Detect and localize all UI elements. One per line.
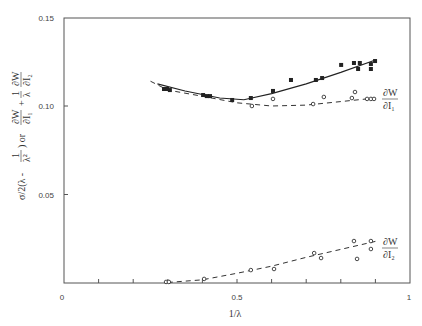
- y-label-text-1: σ/2(λ -: [16, 173, 28, 200]
- data-point-open: [167, 280, 171, 284]
- annotation-dw-di2: ∂W ∂I₂: [382, 236, 398, 260]
- data-point-filled: [201, 93, 205, 97]
- ann1-num: ∂W: [383, 87, 398, 98]
- data-point-open: [250, 104, 254, 108]
- data-point-filled: [230, 98, 234, 102]
- data-point-filled: [320, 76, 324, 80]
- y-label-di2: ∂I₂: [21, 74, 32, 86]
- y-label-text-2: ) or: [16, 133, 28, 148]
- data-point-filled: [271, 89, 275, 93]
- annotation-dw-di1: ∂W ∂I₁: [382, 87, 398, 111]
- ann1-den: ∂I₁: [383, 100, 395, 111]
- data-point-open: [272, 267, 276, 271]
- y-label-lambda: λ: [21, 92, 32, 97]
- fit-curves: [151, 60, 376, 282]
- data-point-filled: [314, 78, 318, 82]
- ann2-num: ∂W: [383, 236, 398, 247]
- y-label-frac-den: λ²: [21, 154, 32, 162]
- data-point-open: [369, 239, 373, 243]
- y-label-dw1: ∂W: [10, 109, 21, 124]
- data-point-filled: [373, 59, 377, 63]
- data-point-open: [365, 97, 369, 101]
- data-point-filled: [289, 78, 293, 82]
- y-label-plus: +: [16, 100, 27, 106]
- ann2-den: ∂I₂: [383, 249, 395, 260]
- data-point-open: [355, 257, 359, 261]
- chart: 0 0.5 1 0.05 0.10 0.15 1/λ σ/2(λ - 1 λ² …: [0, 0, 422, 326]
- y-label-one: 1: [10, 91, 21, 96]
- data-point-filled: [208, 94, 212, 98]
- data-point-open: [249, 268, 253, 272]
- y-label-dw2: ∂W: [10, 71, 21, 86]
- y-label-frac-num: 1: [10, 153, 21, 158]
- y-label-di1: ∂I₁: [21, 112, 32, 124]
- dashed-curve-i1: [151, 81, 376, 106]
- y-axis-label: σ/2(λ - 1 λ² ) or ∂W ∂I₁ + 1 λ ∂W ∂I₂: [10, 71, 32, 200]
- data-point-open: [319, 256, 323, 260]
- x-tick-0: 0: [60, 293, 65, 302]
- y-tick-0-15: 0.15: [38, 14, 54, 23]
- data-point-filled: [339, 63, 343, 67]
- data-point-open: [271, 97, 275, 101]
- x-tick-1: 1: [407, 293, 412, 302]
- y-tick-0-10: 0.10: [38, 102, 54, 111]
- data-point-filled: [356, 67, 360, 71]
- x-axis-label: 1/λ: [229, 308, 242, 319]
- data-point-open: [369, 247, 373, 251]
- data-point-filled: [168, 88, 172, 92]
- dashed-curve-i2: [168, 241, 376, 282]
- data-point-open: [353, 90, 357, 94]
- data-point-filled: [358, 61, 362, 65]
- data-point-filled: [249, 96, 253, 100]
- data-point-filled: [369, 67, 373, 71]
- data-point-open: [352, 239, 356, 243]
- x-ticks: [99, 279, 376, 283]
- data-point-filled: [369, 62, 373, 66]
- data-point-open: [312, 251, 316, 255]
- x-tick-0-5: 0.5: [231, 293, 243, 302]
- plot-axes: [64, 18, 410, 283]
- data-point-open: [311, 102, 315, 106]
- data-point-open: [202, 277, 206, 281]
- data-point-filled: [352, 61, 356, 65]
- data-point-open: [322, 95, 326, 99]
- y-ticks: [64, 106, 68, 195]
- data-point-open: [372, 97, 376, 101]
- data-point-open: [350, 96, 354, 100]
- y-tick-0-05: 0.05: [38, 191, 54, 200]
